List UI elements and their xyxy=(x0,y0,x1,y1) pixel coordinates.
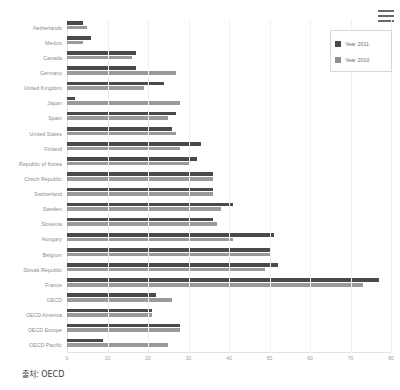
chart-container: NetherlandsMexicoCanadaGermanyUnited Kin… xyxy=(0,0,400,390)
bar-year-2011[interactable] xyxy=(67,309,152,313)
bar-year-2010[interactable] xyxy=(67,71,176,75)
bar-year-2010[interactable] xyxy=(67,132,176,136)
bar-year-2010[interactable] xyxy=(67,177,213,181)
category-label: Japan xyxy=(47,100,62,106)
category-label: OECD Europe xyxy=(28,327,62,333)
bar-year-2010[interactable] xyxy=(67,313,152,317)
gridline xyxy=(108,20,109,353)
bar-year-2010[interactable] xyxy=(67,298,172,302)
bar-year-2010[interactable] xyxy=(67,56,132,60)
bar-year-2010[interactable] xyxy=(67,343,168,347)
bar-year-2010[interactable] xyxy=(67,238,233,242)
x-tick-label: 70 xyxy=(348,355,354,361)
category-label: United Kingdom xyxy=(24,85,62,91)
category-label: France xyxy=(45,282,62,288)
bar-year-2011[interactable] xyxy=(67,36,91,40)
bar-year-2011[interactable] xyxy=(67,218,213,222)
legend-item-year-2010[interactable]: Year 2010 xyxy=(335,52,387,68)
x-tick-label: 80 xyxy=(388,355,394,361)
gridline xyxy=(270,20,271,353)
category-label: Czech Republic xyxy=(24,176,62,182)
menu-line-1 xyxy=(378,10,394,12)
gridline xyxy=(189,20,190,353)
category-label: Belgium xyxy=(43,252,62,258)
legend-swatch-icon xyxy=(335,57,341,63)
bar-year-2011[interactable] xyxy=(67,21,83,25)
category-label: Finland xyxy=(44,146,62,152)
category-label: Hungary xyxy=(42,236,62,242)
menu-line-2 xyxy=(378,15,394,17)
bar-year-2010[interactable] xyxy=(67,147,180,151)
legend-swatch-icon xyxy=(335,41,341,47)
bar-year-2010[interactable] xyxy=(67,41,83,45)
category-label: OECD America xyxy=(26,312,62,318)
chart-legend[interactable]: Year 2011 Year 2010 xyxy=(330,30,392,72)
x-tick-label: 50 xyxy=(267,355,273,361)
bar-year-2010[interactable] xyxy=(67,26,87,30)
category-label: Slovak Republic xyxy=(23,267,62,273)
bar-year-2010[interactable] xyxy=(67,207,221,211)
x-tick-label: 40 xyxy=(226,355,232,361)
category-label: Slovenia xyxy=(41,221,62,227)
bar-year-2011[interactable] xyxy=(67,293,156,297)
bar-year-2010[interactable] xyxy=(67,328,180,332)
x-tick-label: 30 xyxy=(186,355,192,361)
bar-year-2011[interactable] xyxy=(67,127,172,131)
category-label: OECD xyxy=(47,297,62,303)
bar-year-2010[interactable] xyxy=(67,101,180,105)
x-axis-ticks: 01020304050607080 xyxy=(67,355,391,367)
category-label: Sweden xyxy=(43,206,62,212)
category-label: Spain xyxy=(48,115,62,121)
legend-label: Year 2011 xyxy=(345,41,369,47)
gridline xyxy=(310,20,311,353)
bar-year-2010[interactable] xyxy=(67,162,189,166)
bar-year-2010[interactable] xyxy=(67,86,144,90)
category-label: Mexico xyxy=(45,40,62,46)
bar-year-2010[interactable] xyxy=(67,192,213,196)
legend-item-year-2011[interactable]: Year 2011 xyxy=(335,36,387,52)
bar-year-2011[interactable] xyxy=(67,339,103,343)
bar-year-2011[interactable] xyxy=(67,172,213,176)
bar-year-2011[interactable] xyxy=(67,82,164,86)
bar-year-2011[interactable] xyxy=(67,97,75,101)
bar-year-2010[interactable] xyxy=(67,116,168,120)
category-label: United States xyxy=(30,131,62,137)
source-caption: 출처: OECD xyxy=(22,368,64,379)
category-label: Switzerland xyxy=(34,191,62,197)
bar-year-2011[interactable] xyxy=(67,157,197,161)
bar-year-2010[interactable] xyxy=(67,253,270,257)
x-tick-label: 0 xyxy=(66,355,69,361)
bar-year-2011[interactable] xyxy=(67,248,270,252)
bar-year-2010[interactable] xyxy=(67,283,363,287)
category-label: OECD Pacific xyxy=(29,342,62,348)
bar-year-2010[interactable] xyxy=(67,222,217,226)
bar-year-2011[interactable] xyxy=(67,188,213,192)
bar-year-2011[interactable] xyxy=(67,142,201,146)
bar-year-2011[interactable] xyxy=(67,203,233,207)
gridline xyxy=(229,20,230,353)
x-tick-label: 60 xyxy=(307,355,313,361)
bar-year-2011[interactable] xyxy=(67,51,136,55)
category-label: Canada xyxy=(43,55,62,61)
bar-year-2011[interactable] xyxy=(67,112,176,116)
bar-year-2011[interactable] xyxy=(67,233,274,237)
bar-year-2011[interactable] xyxy=(67,66,136,70)
category-label: Republic of Korea xyxy=(19,161,62,167)
category-label: Netherlands xyxy=(33,25,62,31)
category-label: Germany xyxy=(40,70,62,76)
bar-year-2010[interactable] xyxy=(67,268,265,272)
bar-year-2011[interactable] xyxy=(67,263,278,267)
legend-label: Year 2010 xyxy=(345,57,369,63)
bar-year-2011[interactable] xyxy=(67,324,180,328)
bar-year-2011[interactable] xyxy=(67,278,379,282)
x-tick-label: 10 xyxy=(105,355,111,361)
x-tick-label: 20 xyxy=(145,355,151,361)
gridline xyxy=(148,20,149,353)
